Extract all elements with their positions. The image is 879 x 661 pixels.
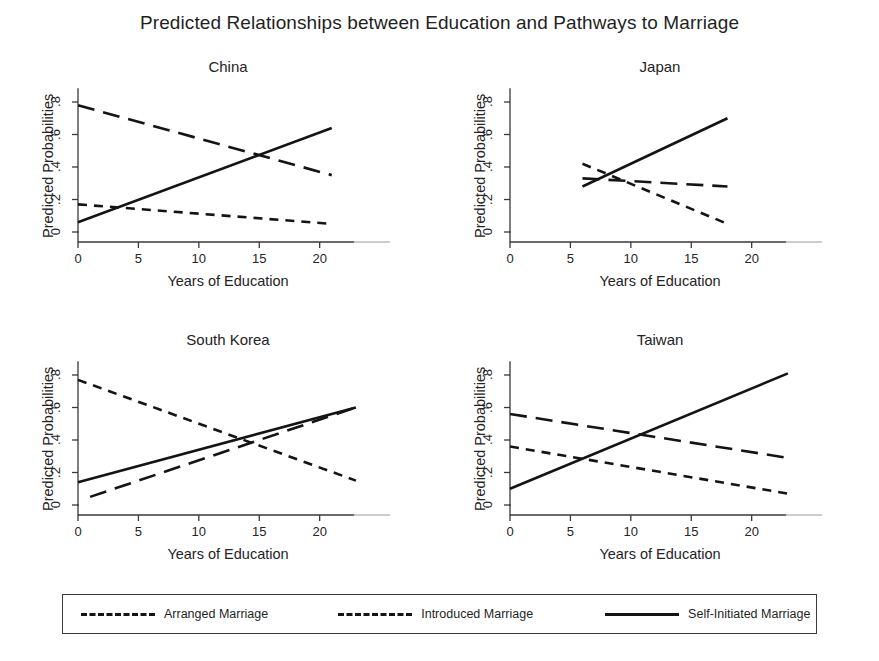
series-line-solid: [510, 373, 788, 488]
figure-title: Predicted Relationships between Educatio…: [0, 12, 879, 34]
panel-japan: Japan0.2.4.6.805101520Predicted Probabil…: [460, 58, 860, 293]
x-axis-label: Years of Education: [28, 273, 428, 289]
x-axis-line: [510, 505, 786, 515]
plot-area: [28, 58, 428, 293]
legend-item-arranged[interactable]: Arranged Marriage: [81, 607, 268, 621]
legend: Arranged MarriageIntroduced MarriageSelf…: [62, 594, 817, 634]
legend-swatch-long-dash-icon: [338, 613, 412, 616]
x-axis-line: [78, 505, 354, 515]
legend-item-introduced[interactable]: Introduced Marriage: [338, 607, 533, 621]
series-line-solid: [78, 128, 332, 222]
series-line-solid: [583, 118, 728, 186]
series-line-short-dash: [78, 380, 356, 481]
x-axis-line: [510, 232, 786, 242]
series-line-long-dash: [78, 105, 332, 175]
x-axis-line: [78, 232, 354, 242]
series-line-short-dash: [583, 164, 728, 224]
plot-area: [460, 331, 860, 566]
x-axis-label: Years of Education: [28, 546, 428, 562]
legend-label: Arranged Marriage: [164, 607, 268, 621]
series-line-long-dash: [583, 178, 728, 186]
y-axis-label: Predicted Probabilities: [472, 94, 488, 238]
y-axis-label: Predicted Probabilities: [472, 367, 488, 511]
legend-item-self_initiated[interactable]: Self-Initiated Marriage: [605, 607, 810, 621]
x-axis-label: Years of Education: [460, 273, 860, 289]
legend-label: Self-Initiated Marriage: [688, 607, 810, 621]
plot-area: [28, 331, 428, 566]
series-line-long-dash: [510, 414, 788, 458]
panel-china: China0.2.4.6.805101520Predicted Probabil…: [28, 58, 428, 293]
plot-area: [460, 58, 860, 293]
panel-south-korea: South Korea0.2.4.6.805101520Predicted Pr…: [28, 331, 428, 566]
legend-swatch-short-dash-icon: [81, 613, 155, 616]
series-line-long-dash: [90, 408, 356, 497]
series-line-solid: [78, 408, 356, 483]
x-axis-label: Years of Education: [460, 546, 860, 562]
panel-taiwan: Taiwan0.2.4.6.805101520Predicted Probabi…: [460, 331, 860, 566]
legend-swatch-solid-icon: [605, 613, 679, 616]
figure-root: Predicted Relationships between Educatio…: [0, 0, 879, 661]
y-axis-label: Predicted Probabilities: [40, 94, 56, 238]
legend-label: Introduced Marriage: [421, 607, 533, 621]
y-axis-label: Predicted Probabilities: [40, 367, 56, 511]
